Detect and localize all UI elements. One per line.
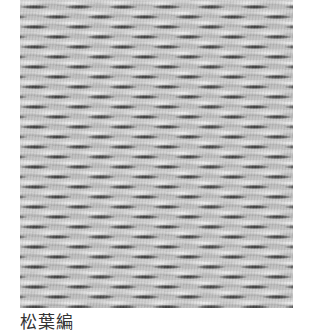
weave-grain-overlay: [20, 0, 293, 308]
image-caption: 松葉編: [20, 312, 74, 332]
woven-texture-image: [20, 0, 293, 308]
